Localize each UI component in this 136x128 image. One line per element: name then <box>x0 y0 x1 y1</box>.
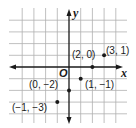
point-2-0 <box>90 65 94 69</box>
origin-label: O <box>59 67 68 79</box>
point-1-neg1 <box>79 77 83 81</box>
point-label-neg1-neg3: (−1, −3) <box>12 102 47 113</box>
point-label-2-0: (2, 0) <box>72 49 95 60</box>
x-axis-label: x <box>120 66 127 80</box>
coordinate-plane: x y O (2, 0) (3, 1) (1, −1) (0, −2) (−1,… <box>0 0 136 128</box>
y-axis-down-arrow-icon <box>67 117 72 124</box>
point-label-1-neg1: (1, −1) <box>85 79 114 90</box>
y-axis-label: y <box>71 6 79 20</box>
point-neg1-neg3 <box>55 100 59 104</box>
point-0-neg2 <box>67 88 71 92</box>
point-label-0-neg2: (0, −2) <box>29 79 58 90</box>
y-axis-up-arrow-icon <box>67 9 72 16</box>
point-label-3-1: (3, 1) <box>106 45 129 56</box>
x-axis-left-arrow-icon <box>9 65 16 70</box>
